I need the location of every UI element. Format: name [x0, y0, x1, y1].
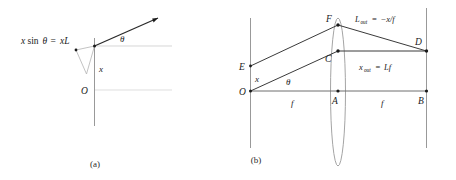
label-eq-top-equals: = [372, 14, 377, 24]
label-point-F: F [325, 14, 332, 24]
label-point-C: C [325, 54, 332, 64]
point-projection [75, 49, 78, 52]
point-E-dot [249, 65, 252, 68]
point-ray-origin [93, 45, 96, 48]
label-equation-x: x [20, 36, 26, 46]
label-angle-theta: θ [286, 77, 291, 87]
label-eq-top-subscript: out [361, 19, 368, 25]
point-F-dot [336, 23, 339, 26]
label-height-x: x [254, 74, 259, 84]
ray-line [95, 18, 159, 46]
point-D-dot [425, 49, 428, 52]
label-eq-top-var: L [354, 14, 360, 24]
point-C-dot [336, 49, 339, 52]
label-eq-top-value: −x/f [381, 14, 397, 24]
label-equation-equals: = [51, 36, 56, 46]
label-angle-theta: θ [120, 34, 125, 44]
label-eq-mid-var: x [358, 62, 363, 72]
label-height-x: x [98, 64, 103, 74]
caption-panel-b: (b) [251, 155, 262, 165]
label-point-A: A [331, 96, 338, 106]
point-O-dot [249, 90, 252, 93]
projection-segment [76, 46, 95, 50]
figure-root: x sin θ = xL θ x O (a) [0, 0, 456, 180]
label-focal-right: f [381, 98, 385, 108]
label-equation-sin: sin [28, 36, 39, 46]
label-origin-o: O [81, 86, 88, 96]
label-equation-theta: θ [43, 36, 48, 46]
triangle-hypotenuse [76, 50, 87, 74]
label-point-E: E [238, 62, 245, 72]
label-point-O: O [239, 87, 246, 97]
label-focal-left: f [291, 98, 295, 108]
caption-panel-a: (a) [90, 159, 100, 169]
panel-b-diagram: E O F C A B D x θ f f L out = −x/f x out… [228, 0, 456, 180]
label-eq-mid-equals: = [376, 62, 381, 72]
panel-a-diagram: x sin θ = xL θ x O (a) [0, 0, 228, 180]
label-point-D: D [414, 37, 422, 47]
point-B-dot [425, 89, 428, 92]
label-eq-mid-value: Lf [383, 62, 393, 72]
point-A-dot [336, 89, 339, 92]
ray-F-to-D [338, 25, 427, 51]
label-point-B: B [418, 96, 424, 106]
triangle-side [87, 46, 95, 74]
label-eq-mid-subscript: out [364, 67, 371, 73]
ray-arrowhead [152, 18, 158, 22]
label-equation-rhs: xL [59, 36, 70, 46]
